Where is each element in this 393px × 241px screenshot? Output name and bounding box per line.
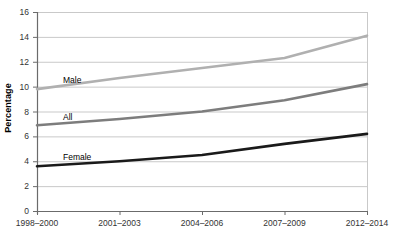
series-label-all: All [63,113,72,122]
series-label-male: Male [63,76,81,85]
series-line-all [37,84,367,125]
series-label-female: Female [63,153,91,162]
